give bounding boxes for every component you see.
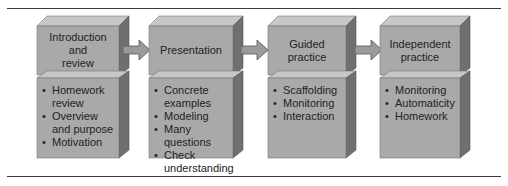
stage-title: Independent practice <box>380 26 460 75</box>
stage-introduction-and-review: Introduction and review Homework review … <box>37 16 137 162</box>
stage-items: Monitoring Automaticity Homework <box>385 84 461 123</box>
list-item: Overview and purpose <box>42 110 118 136</box>
stage-items: Scaffolding Monitoring Interaction <box>273 84 349 123</box>
list-item: Monitoring <box>273 97 349 110</box>
list-item: Automaticity <box>385 97 461 110</box>
list-item: Monitoring <box>385 84 461 97</box>
list-item: Many questions <box>154 123 236 149</box>
list-item: Interaction <box>273 110 349 123</box>
stage-items: Homework review Overview and purpose Mot… <box>42 84 118 149</box>
arrow-right-icon <box>241 40 269 60</box>
list-item: Homework review <box>42 84 118 110</box>
list-item: Motivation <box>42 136 118 149</box>
list-item: Check understanding <box>154 149 236 175</box>
stage-guided-practice: Guided practice Scaffolding Monitoring I… <box>268 16 368 162</box>
stage-independent-practice: Independent practice Monitoring Automati… <box>380 16 480 162</box>
stage-title: Introduction and review <box>37 26 119 75</box>
arrow-right-icon <box>123 40 151 60</box>
list-item: Homework <box>385 110 461 123</box>
list-item: Scaffolding <box>273 84 349 97</box>
stage-presentation: Presentation Concrete examples Modeling … <box>149 16 249 162</box>
list-item: Modeling <box>154 110 236 123</box>
arrow-right-icon <box>355 40 383 60</box>
top-rule <box>7 8 501 9</box>
list-item: Concrete examples <box>154 84 236 110</box>
bottom-rule <box>7 176 501 177</box>
stage-title: Guided practice <box>268 26 346 75</box>
stage-title: Presentation <box>149 26 233 75</box>
stage-items: Concrete examples Modeling Many question… <box>154 84 236 175</box>
